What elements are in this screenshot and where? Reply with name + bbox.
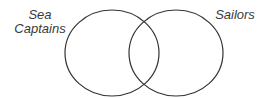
set-circle-sea-captains	[65, 10, 159, 96]
label-sailors: Sailors	[210, 8, 260, 22]
label-sea-captains: Sea Captains	[14, 8, 66, 36]
set-circle-sailors	[129, 10, 223, 96]
